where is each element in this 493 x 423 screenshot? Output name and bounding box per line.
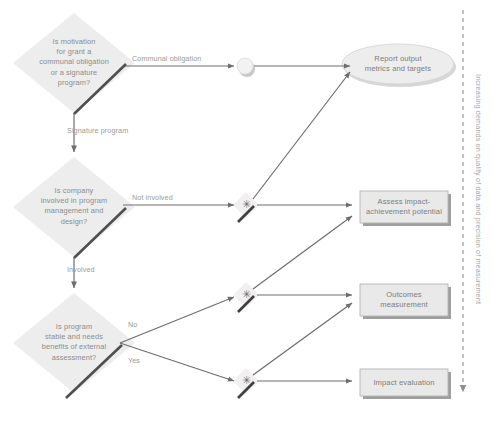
edge-label-not-involved: Not involved [132, 193, 173, 202]
decision-company-involvement-shape[interactable] [13, 157, 135, 257]
decision-motivation-shape[interactable] [13, 13, 135, 113]
edge-label-involved: Involved [67, 265, 95, 274]
arrow-star3-to-outcomes [253, 303, 352, 375]
outcome-impact-evaluation-label: Impact evaluation [360, 378, 448, 388]
edge-label-no: No [128, 320, 137, 329]
edge-label-communal-obligation: Communal obligation [132, 54, 201, 63]
arrow-star2-to-assess-impact [253, 216, 352, 289]
connector-star-3-glyph: ✳ [239, 375, 253, 386]
edge-label-yes: Yes [128, 356, 140, 365]
connector-star-2-glyph: ✳ [239, 289, 253, 300]
increasing-demands-axis-label: Increasing demands on quality of data an… [474, 74, 483, 304]
arrow-star1-to-report [253, 72, 350, 199]
connector-star-1-glyph: ✳ [239, 199, 253, 210]
outcome-assess-impact-label: Assess impact- achievement potential [360, 197, 448, 218]
decision-program-stability-shape[interactable] [13, 293, 135, 393]
connector-circle-shape[interactable] [237, 58, 255, 77]
edge-label-signature-program: Signature program [67, 126, 128, 135]
outcome-report-output-label: Report output metrics and targets [342, 54, 454, 75]
outcome-outcomes-measurement-label: Outcomes measurement [360, 290, 448, 311]
flowchart-canvas: Is motivation for grant a communal oblig… [0, 0, 493, 423]
